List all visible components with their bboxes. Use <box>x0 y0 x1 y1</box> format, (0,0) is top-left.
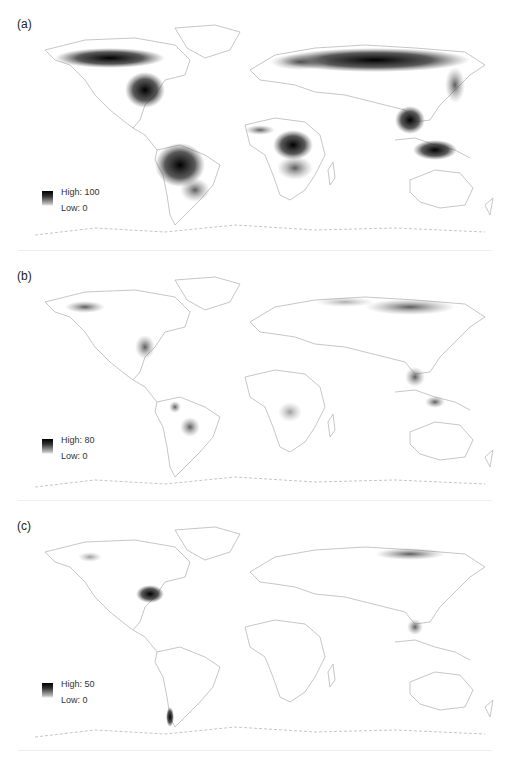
legend-low-label: Low: 0 <box>61 203 88 213</box>
panel-label: (a) <box>17 17 32 31</box>
panel-label: (c) <box>17 519 31 533</box>
legend-high-label: High: 100 <box>61 187 100 197</box>
legend-gradient-swatch <box>42 683 53 698</box>
panel-divider <box>18 250 492 251</box>
legend-gradient-swatch <box>42 439 53 454</box>
panel-c: (c) High: 50 Low: 0 <box>0 502 511 752</box>
panel-divider <box>18 500 492 501</box>
panel-divider <box>18 750 492 751</box>
legend-low-label: Low: 0 <box>61 451 88 461</box>
legend-high-label: High: 50 <box>61 679 95 689</box>
legend-gradient-swatch <box>42 191 53 206</box>
panel-label: (b) <box>17 269 32 283</box>
world-map-c <box>15 512 495 752</box>
panel-b: (b) High: 80 Low: 0 <box>0 252 511 502</box>
legend-low-label: Low: 0 <box>61 695 88 705</box>
world-map-b <box>15 262 495 502</box>
world-map-a <box>15 10 495 250</box>
panel-a: (a) High: 100 Low: 0 <box>0 0 511 250</box>
legend-high-label: High: 80 <box>61 435 95 445</box>
